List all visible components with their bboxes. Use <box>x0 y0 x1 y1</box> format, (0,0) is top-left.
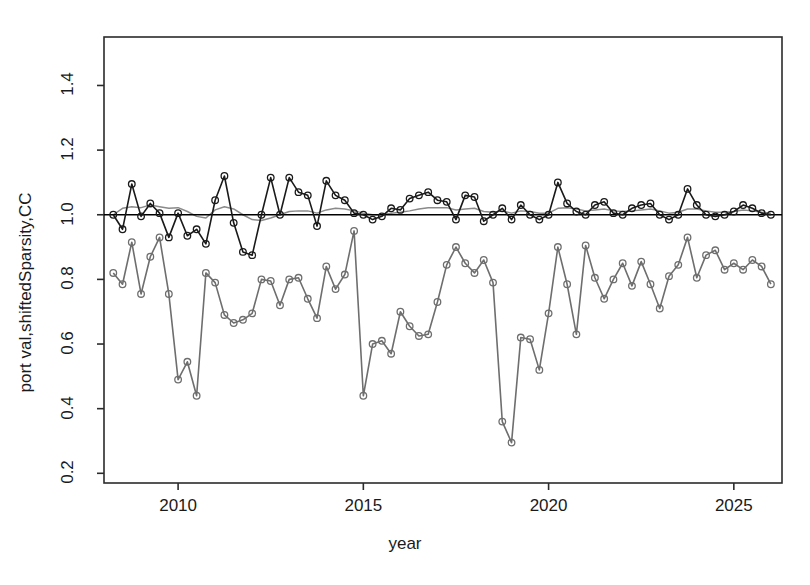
x-axis-tick-label: 2020 <box>519 496 579 516</box>
x-axis-tick-label: 2025 <box>704 496 764 516</box>
y-axis-tick-label: 0.4 <box>58 386 78 430</box>
x-axis-title: year <box>0 534 810 554</box>
figure-canvas: year port val,shiftedSparsity,CC 0.20.40… <box>0 0 810 585</box>
y-axis-tick-label: 0.8 <box>58 256 78 300</box>
y-axis-tick-label: 0.6 <box>58 321 78 365</box>
chart-plot-area <box>0 0 810 585</box>
y-axis-tick-label: 1.4 <box>58 62 78 106</box>
y-axis-tick-label: 0.2 <box>58 450 78 494</box>
x-axis-tick-label: 2015 <box>333 496 393 516</box>
x-axis-tick-label: 2010 <box>148 496 208 516</box>
y-axis-tick-label: 1.0 <box>58 192 78 236</box>
y-axis-tick-label: 1.2 <box>58 127 78 171</box>
y-axis-title: port val,shiftedSparsity,CC <box>14 0 38 585</box>
